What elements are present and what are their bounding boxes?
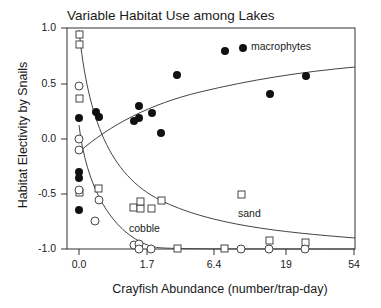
cobble-points [75, 82, 309, 253]
cobble-fit-curve [79, 125, 355, 249]
sand-points [76, 31, 309, 252]
sand-fit-curve [79, 30, 355, 238]
y-ticks [61, 28, 67, 249]
x-ticks [79, 249, 354, 255]
plot-area [0, 0, 381, 308]
macrophytes-fit-curve [79, 67, 355, 152]
